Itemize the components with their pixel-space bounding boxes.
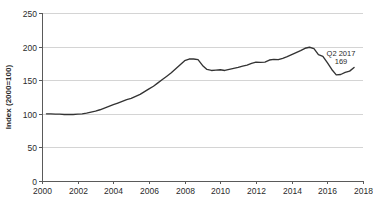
x-tick-label: 2016 — [318, 186, 337, 196]
x-tick-label: 2006 — [140, 186, 159, 196]
x-tick-label: 2008 — [176, 186, 195, 196]
x-tick-label: 2000 — [33, 186, 52, 196]
y-axis-title: Index (2000=100) — [4, 65, 13, 130]
y-tick-label: 50 — [28, 143, 38, 153]
x-tick-label: 2002 — [69, 186, 88, 196]
y-tick-label: 150 — [23, 76, 37, 86]
y-tick-label: 0 — [32, 177, 37, 187]
x-tick-label: 2004 — [104, 186, 123, 196]
y-tick-label: 200 — [23, 43, 37, 53]
x-tick-label: 2014 — [283, 186, 302, 196]
annotation-label-value: 169 — [335, 57, 348, 66]
line-chart-figure: 050100150200250 200020022004200620082010… — [0, 0, 373, 203]
x-tick-label: 2010 — [211, 186, 230, 196]
chart-background — [0, 0, 373, 203]
x-tick-label: 2018 — [354, 186, 373, 196]
y-tick-label: 250 — [23, 9, 37, 19]
x-tick-label: 2012 — [247, 186, 266, 196]
chart-canvas: 050100150200250 200020022004200620082010… — [0, 0, 373, 203]
y-tick-label: 100 — [23, 110, 37, 120]
